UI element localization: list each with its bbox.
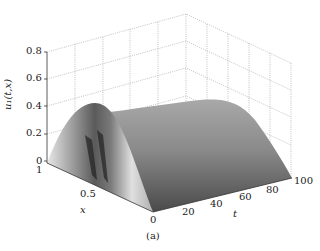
x-axis-label: x: [80, 204, 86, 215]
x-tick-0: 0: [150, 214, 156, 225]
z-tick-0.2: 0.2: [26, 127, 42, 138]
t-tick-40: 40: [210, 198, 223, 209]
t-tick-100: 100: [294, 175, 313, 186]
x-tick-0.5: 0.5: [80, 188, 96, 199]
surface-plot: [0, 0, 320, 251]
figure-caption: (a): [146, 230, 160, 241]
z-tick-0.6: 0.6: [26, 72, 42, 83]
t-tick-80: 80: [266, 184, 279, 195]
z-tick-0.4: 0.4: [26, 100, 42, 111]
z-tick-0.8: 0.8: [26, 45, 42, 56]
t-tick-20: 20: [182, 206, 195, 217]
x-tick-1: 1: [36, 164, 42, 175]
z-axis-label: u₁(t,x): [2, 79, 13, 110]
t-tick-60: 60: [239, 191, 252, 202]
t-axis-label: t: [233, 208, 237, 219]
